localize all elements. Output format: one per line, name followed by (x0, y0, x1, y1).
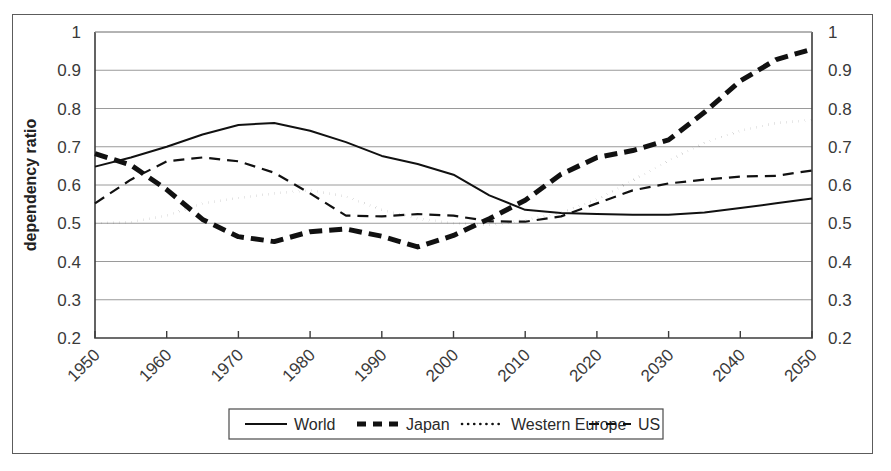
y-axis-tick-0.8: 0.8 (57, 100, 81, 119)
legend-label-us: US (638, 416, 660, 433)
x-axis-tick-1990: 1990 (350, 345, 390, 385)
y-axis-tick-0.5: 0.5 (57, 214, 81, 233)
x-axis-tick-2010: 2010 (494, 345, 534, 385)
y-axis-right-tick-1: 1 (828, 23, 837, 42)
y-axis-title: dependency ratio (22, 119, 39, 252)
y-axis-right-tick-0.3: 0.3 (828, 291, 852, 310)
x-axis-tick-1950: 1950 (64, 345, 104, 385)
dependency-ratio-line-chart: 0.20.20.30.30.40.40.50.50.60.60.70.70.80… (0, 0, 891, 471)
x-axis-tick-1960: 1960 (135, 345, 175, 385)
x-axis-tick-2040: 2040 (709, 345, 749, 385)
y-axis-right-tick-0.9: 0.9 (828, 61, 852, 80)
x-axis-tick-2030: 2030 (637, 345, 677, 385)
y-axis-tick-0.6: 0.6 (57, 176, 81, 195)
y-axis-tick-0.7: 0.7 (57, 138, 81, 157)
y-axis-right-tick-0.4: 0.4 (828, 253, 852, 272)
y-axis-right-tick-0.6: 0.6 (828, 176, 852, 195)
series-line-western-europe (95, 120, 812, 225)
x-axis-tick-2020: 2020 (566, 345, 606, 385)
y-axis-tick-0.9: 0.9 (57, 61, 81, 80)
y-axis-right-tick-0.7: 0.7 (828, 138, 852, 157)
series-line-world (95, 123, 812, 215)
y-axis-right-tick-0.8: 0.8 (828, 100, 852, 119)
y-axis-right-tick-0.2: 0.2 (828, 329, 852, 348)
chart-figure: 0.20.20.30.30.40.40.50.50.60.60.70.70.80… (0, 0, 891, 471)
x-axis-tick-1970: 1970 (207, 345, 247, 385)
y-axis-tick-1: 1 (72, 23, 81, 42)
y-axis-tick-0.3: 0.3 (57, 291, 81, 310)
x-axis-tick-2000: 2000 (422, 345, 462, 385)
legend-label-world: World (294, 416, 336, 433)
y-axis-right-tick-0.5: 0.5 (828, 214, 852, 233)
legend-label-japan: Japan (406, 416, 450, 433)
y-axis-tick-0.2: 0.2 (57, 329, 81, 348)
x-axis-tick-2050: 2050 (781, 345, 821, 385)
x-axis-tick-1980: 1980 (279, 345, 319, 385)
series-line-japan (95, 49, 812, 247)
y-axis-tick-0.4: 0.4 (57, 253, 81, 272)
